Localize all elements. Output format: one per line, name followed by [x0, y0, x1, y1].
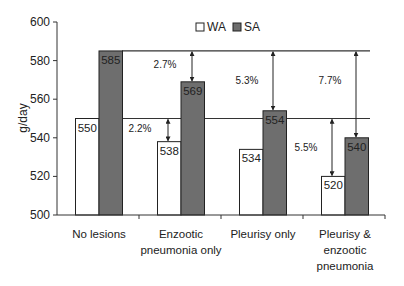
x-category-label: Pleurisy only — [230, 228, 295, 240]
legend-swatch-wa — [196, 23, 204, 31]
bar-chart: 5505385345205855695545402.2%2.7%5.3%5.5%… — [0, 0, 404, 286]
bar-value-label: 534 — [242, 152, 262, 164]
y-axis-label: g/day — [16, 103, 30, 132]
bar-value-label: 569 — [183, 85, 202, 97]
y-tick-label: 560 — [30, 92, 50, 106]
y-tick-label: 580 — [30, 54, 50, 68]
x-category-label: pneumonia only — [140, 244, 221, 256]
x-category-label: Enzootic — [159, 228, 203, 240]
x-category-label: enzootic — [324, 244, 367, 256]
x-category-label: No lesions — [72, 228, 126, 240]
percent-annotation: 7.7% — [319, 75, 342, 86]
legend-label-sa: SA — [244, 20, 260, 34]
bar-value-label: 520 — [324, 179, 343, 191]
percent-annotation: 2.7% — [154, 59, 177, 70]
bar-value-label: 540 — [347, 141, 366, 153]
y-tick-label: 520 — [30, 169, 50, 183]
bar-value-label: 538 — [160, 145, 179, 157]
bar-value-label: 585 — [101, 54, 120, 66]
bar-sa-2 — [263, 111, 287, 215]
percent-annotation: 5.3% — [236, 75, 259, 86]
bar-value-label: 550 — [78, 122, 97, 134]
bar-sa-1 — [181, 82, 205, 215]
legend-label-wa: WA — [207, 20, 226, 34]
bar-sa-0 — [99, 51, 123, 215]
y-tick-label: 500 — [30, 208, 50, 222]
x-category-label: Pleurisy & — [319, 228, 371, 240]
y-tick-label: 540 — [30, 131, 50, 145]
percent-annotation: 5.5% — [295, 142, 318, 153]
bar-value-label: 554 — [265, 114, 285, 126]
percent-annotation: 2.2% — [129, 123, 152, 134]
x-category-label: pneumonia — [317, 260, 375, 272]
legend-swatch-sa — [233, 23, 241, 31]
y-tick-label: 600 — [30, 15, 50, 29]
